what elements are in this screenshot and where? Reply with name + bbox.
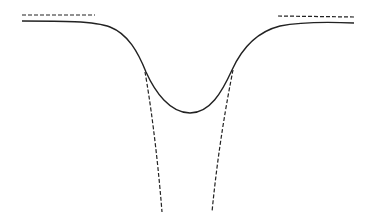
dashed-branch-right xyxy=(212,70,233,212)
dashed-asymptote-right xyxy=(278,16,354,17)
diagram-svg xyxy=(0,0,368,224)
solid-curve xyxy=(22,21,354,113)
diagram-canvas xyxy=(0,0,368,224)
dashed-branch-left xyxy=(145,72,162,212)
